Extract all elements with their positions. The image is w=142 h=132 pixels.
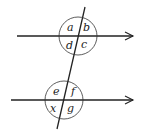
angle-label-x: x <box>50 102 57 115</box>
angle-label-d: d <box>66 39 73 52</box>
angle-label-b: b <box>83 21 90 34</box>
parallel-lines-diagram: a b d c e f x g <box>0 0 142 132</box>
angle-label-g: g <box>67 102 74 115</box>
angle-label-c: c <box>81 38 87 51</box>
angle-label-f: f <box>70 85 77 98</box>
top-parallel-line <box>17 32 133 40</box>
angle-label-e: e <box>53 85 60 98</box>
angle-label-a: a <box>67 21 74 34</box>
